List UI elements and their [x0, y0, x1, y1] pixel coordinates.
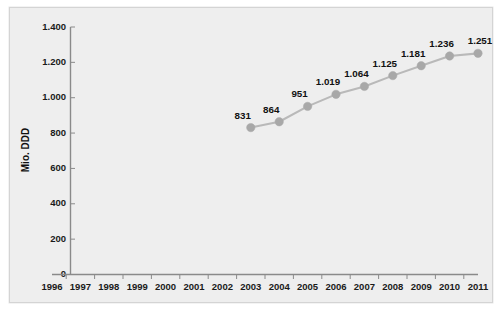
data-point-marker [389, 71, 397, 79]
y-tick-label: 600 [50, 162, 66, 173]
data-point-marker [474, 49, 482, 57]
y-tick-label: 0 [61, 268, 66, 279]
x-tick-label: 2009 [411, 281, 432, 292]
data-point-marker [275, 118, 283, 126]
x-tick-label: 1996 [41, 281, 62, 292]
x-tick-label: 2010 [439, 281, 460, 292]
x-tick-label: 2007 [354, 281, 375, 292]
series-markers [247, 49, 483, 132]
data-point-label: 831 [235, 110, 252, 121]
x-tick-label: 1999 [127, 281, 148, 292]
data-point-label: 951 [291, 88, 308, 99]
x-tick-label: 2003 [240, 281, 261, 292]
data-point-marker [360, 82, 368, 90]
y-tick-label: 1.400 [42, 21, 66, 32]
x-tick-label: 2004 [269, 281, 291, 292]
series-group: 8318649511.0191.0641.1251.1811.2361.251 [235, 35, 493, 131]
y-tick-label: 200 [50, 233, 66, 244]
y-tick-label: 800 [50, 127, 66, 138]
x-tick-label: 2011 [468, 281, 489, 292]
chart-figure: 02004006008001.0001.2001.400 Mio. DDD 19… [0, 0, 502, 313]
data-point-label: 1.019 [316, 76, 341, 87]
data-point-label: 1.064 [344, 68, 369, 79]
data-point-label: 1.181 [401, 48, 426, 59]
x-tick-label: 1998 [98, 281, 119, 292]
line-chart: 02004006008001.0001.2001.400 Mio. DDD 19… [0, 0, 502, 313]
x-tick-label: 2005 [297, 281, 319, 292]
y-axis-tick-labels: 02004006008001.0001.2001.400 [42, 21, 66, 280]
y-tick-label: 1.000 [42, 91, 66, 102]
x-tick-label: 2000 [155, 281, 176, 292]
x-tick-label: 2002 [212, 281, 233, 292]
data-point-marker [332, 90, 340, 98]
x-axis-group: 1996199719981999200020012002200320042005… [41, 275, 489, 293]
data-point-label: 864 [263, 104, 280, 115]
data-point-label: 1.125 [373, 58, 398, 69]
data-point-marker [445, 52, 453, 60]
y-axis-title: Mio. DDD [20, 128, 31, 172]
x-tick-label: 2006 [325, 281, 346, 292]
x-tick-label: 2008 [382, 281, 403, 292]
data-point-label: 1.236 [429, 38, 454, 49]
x-tick-label: 2001 [183, 281, 205, 292]
data-point-label: 1.251 [468, 35, 493, 46]
y-tick-label: 1.200 [42, 56, 66, 67]
y-axis-group: 02004006008001.0001.2001.400 Mio. DDD [20, 21, 75, 280]
x-tick-label: 1997 [70, 281, 91, 292]
series-point-labels: 8318649511.0191.0641.1251.1811.2361.251 [235, 35, 493, 120]
data-point-marker [417, 62, 425, 70]
y-tick-label: 400 [50, 197, 66, 208]
data-point-marker [247, 123, 255, 131]
data-point-marker [303, 102, 311, 110]
x-axis-tick-labels: 1996199719981999200020012002200320042005… [41, 281, 489, 292]
